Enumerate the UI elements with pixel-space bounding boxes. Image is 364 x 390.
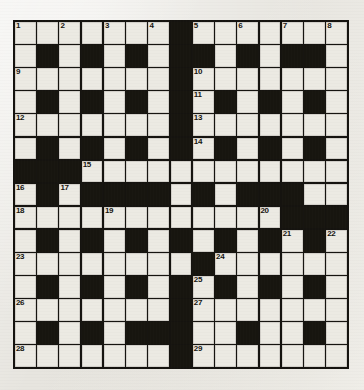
grid-open-cell[interactable] [260, 345, 281, 367]
grid-open-cell[interactable] [215, 161, 236, 183]
grid-open-cell[interactable] [37, 299, 58, 321]
grid-open-cell[interactable] [304, 299, 325, 321]
grid-open-cell[interactable] [237, 114, 258, 136]
grid-open-cell[interactable] [282, 161, 303, 183]
grid-open-cell[interactable]: 15 [82, 161, 103, 183]
grid-open-cell[interactable] [104, 253, 125, 275]
grid-open-cell[interactable] [237, 138, 258, 160]
grid-open-cell[interactable] [104, 276, 125, 298]
grid-open-cell[interactable] [126, 114, 147, 136]
grid-open-cell[interactable] [326, 138, 347, 160]
grid-open-cell[interactable]: 14 [193, 138, 214, 160]
grid-open-cell[interactable]: 27 [193, 299, 214, 321]
grid-open-cell[interactable] [82, 22, 103, 44]
grid-open-cell[interactable] [237, 253, 258, 275]
grid-open-cell[interactable] [104, 322, 125, 344]
grid-open-cell[interactable]: 23 [15, 253, 36, 275]
grid-open-cell[interactable]: 22 [326, 230, 347, 252]
grid-open-cell[interactable] [260, 22, 281, 44]
grid-open-cell[interactable] [326, 68, 347, 90]
grid-open-cell[interactable] [237, 345, 258, 367]
grid-open-cell[interactable] [148, 253, 169, 275]
grid-open-cell[interactable]: 5 [193, 22, 214, 44]
grid-open-cell[interactable]: 21 [282, 230, 303, 252]
grid-open-cell[interactable] [59, 253, 80, 275]
grid-open-cell[interactable]: 19 [104, 207, 125, 229]
grid-open-cell[interactable] [215, 45, 236, 67]
grid-open-cell[interactable] [326, 299, 347, 321]
grid-open-cell[interactable] [282, 253, 303, 275]
grid-open-cell[interactable] [82, 299, 103, 321]
grid-open-cell[interactable] [126, 345, 147, 367]
grid-open-cell[interactable] [82, 345, 103, 367]
grid-open-cell[interactable] [260, 161, 281, 183]
grid-open-cell[interactable] [237, 91, 258, 113]
grid-open-cell[interactable] [15, 45, 36, 67]
grid-open-cell[interactable] [104, 299, 125, 321]
grid-open-cell[interactable] [193, 230, 214, 252]
grid-open-cell[interactable] [215, 114, 236, 136]
grid-open-cell[interactable] [148, 207, 169, 229]
grid-open-cell[interactable] [104, 230, 125, 252]
grid-open-cell[interactable] [104, 91, 125, 113]
grid-open-cell[interactable] [104, 138, 125, 160]
grid-open-cell[interactable] [326, 276, 347, 298]
grid-open-cell[interactable] [260, 322, 281, 344]
grid-open-cell[interactable] [171, 207, 192, 229]
grid-open-cell[interactable]: 29 [193, 345, 214, 367]
grid-open-cell[interactable] [260, 253, 281, 275]
grid-open-cell[interactable] [326, 322, 347, 344]
grid-open-cell[interactable] [148, 299, 169, 321]
grid-open-cell[interactable] [260, 299, 281, 321]
grid-open-cell[interactable] [282, 276, 303, 298]
grid-open-cell[interactable] [326, 91, 347, 113]
grid-open-cell[interactable] [215, 299, 236, 321]
grid-open-cell[interactable] [37, 253, 58, 275]
grid-open-cell[interactable] [304, 114, 325, 136]
grid-open-cell[interactable] [304, 161, 325, 183]
grid-open-cell[interactable] [148, 345, 169, 367]
grid-open-cell[interactable] [59, 114, 80, 136]
grid-open-cell[interactable] [148, 138, 169, 160]
grid-open-cell[interactable] [282, 68, 303, 90]
grid-open-cell[interactable] [282, 322, 303, 344]
grid-open-cell[interactable]: 20 [260, 207, 281, 229]
grid-open-cell[interactable]: 26 [15, 299, 36, 321]
grid-open-cell[interactable] [15, 138, 36, 160]
grid-open-cell[interactable]: 7 [282, 22, 303, 44]
grid-open-cell[interactable] [126, 68, 147, 90]
grid-open-cell[interactable]: 10 [193, 68, 214, 90]
grid-open-cell[interactable] [215, 22, 236, 44]
grid-open-cell[interactable] [126, 253, 147, 275]
grid-open-cell[interactable] [282, 114, 303, 136]
grid-open-cell[interactable] [304, 345, 325, 367]
grid-open-cell[interactable] [59, 299, 80, 321]
grid-open-cell[interactable] [59, 91, 80, 113]
grid-open-cell[interactable]: 3 [104, 22, 125, 44]
grid-open-cell[interactable]: 25 [193, 276, 214, 298]
grid-open-cell[interactable]: 2 [59, 22, 80, 44]
grid-open-cell[interactable] [237, 207, 258, 229]
grid-open-cell[interactable] [304, 22, 325, 44]
grid-open-cell[interactable] [326, 114, 347, 136]
grid-open-cell[interactable] [59, 45, 80, 67]
grid-open-cell[interactable] [260, 68, 281, 90]
grid-open-cell[interactable]: 4 [148, 22, 169, 44]
grid-open-cell[interactable] [37, 207, 58, 229]
grid-open-cell[interactable] [304, 68, 325, 90]
grid-open-cell[interactable] [59, 276, 80, 298]
grid-open-cell[interactable] [126, 299, 147, 321]
crossword-grid[interactable]: 1234567891011121314151617181920212223242… [13, 20, 349, 369]
grid-open-cell[interactable] [59, 68, 80, 90]
grid-open-cell[interactable] [215, 207, 236, 229]
grid-open-cell[interactable] [15, 91, 36, 113]
grid-open-cell[interactable] [215, 322, 236, 344]
grid-open-cell[interactable] [215, 68, 236, 90]
grid-open-cell[interactable] [304, 184, 325, 206]
grid-open-cell[interactable]: 1 [15, 22, 36, 44]
grid-open-cell[interactable]: 24 [215, 253, 236, 275]
grid-open-cell[interactable]: 17 [59, 184, 80, 206]
grid-open-cell[interactable] [126, 207, 147, 229]
grid-open-cell[interactable] [171, 184, 192, 206]
grid-open-cell[interactable] [148, 91, 169, 113]
